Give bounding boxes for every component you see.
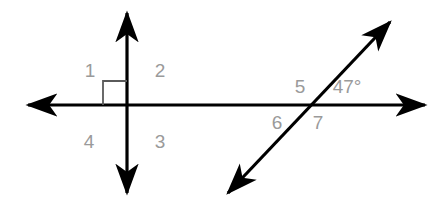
angle-label-6: 6: [272, 113, 283, 132]
geometry-canvas: [0, 0, 445, 210]
geometry-diagram: 1234567 47°: [0, 0, 445, 210]
angle-label-7: 7: [313, 113, 324, 132]
angle-label-1: 1: [85, 61, 96, 80]
angle-label-5: 5: [295, 77, 306, 96]
right-angle-marker-icon: [103, 81, 127, 105]
angle-measure-47: 47°: [333, 77, 362, 96]
angle-label-2: 2: [155, 61, 166, 80]
angle-label-4: 4: [84, 132, 95, 151]
angle-label-3: 3: [155, 132, 166, 151]
transversal-line: [228, 22, 390, 193]
